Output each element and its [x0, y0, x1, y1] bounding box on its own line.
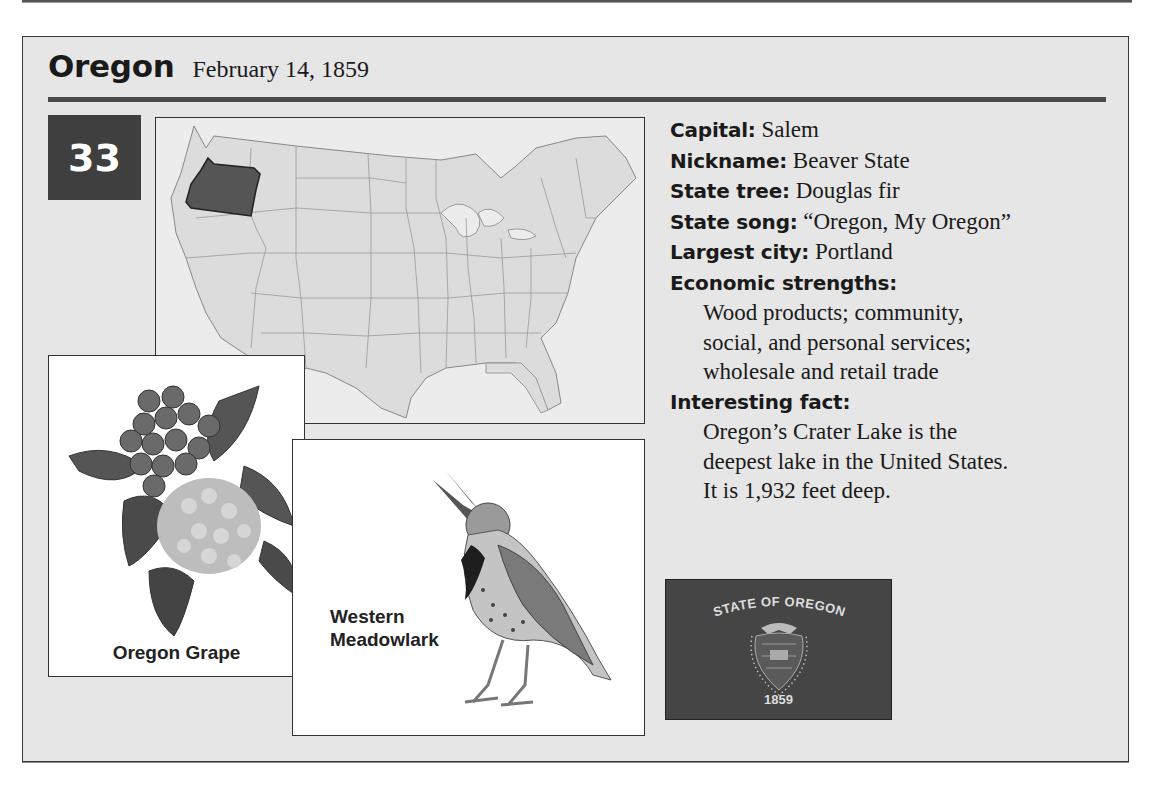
- fact-value: Beaver State: [793, 148, 910, 173]
- fact-label: Largest city:: [670, 240, 809, 264]
- fact-state-song: State song: “Oregon, My Oregon”: [670, 207, 1120, 238]
- flag-top-text: STATE OF OREGON: [711, 594, 847, 620]
- fact-economic-strengths: Economic strengths:: [670, 268, 1120, 299]
- text-line: Oregon’s Crater Lake is the: [703, 417, 1120, 447]
- previous-card-bottom-border: [22, 0, 1132, 3]
- state-name: Oregon: [48, 48, 174, 84]
- meadowlark-icon: [293, 440, 646, 737]
- state-bird-label-line1: Western: [330, 605, 439, 628]
- fact-label: State song:: [670, 210, 798, 234]
- flag-year: 1859: [666, 692, 891, 707]
- fact-nickname: Nickname: Beaver State: [670, 146, 1120, 177]
- title-divider: [48, 97, 1106, 102]
- economic-strengths-text: Wood products; community, social, and pe…: [670, 298, 1120, 387]
- oregon-grape-icon: [49, 356, 306, 678]
- fact-label: Interesting fact:: [670, 390, 850, 414]
- admission-date: February 14, 1859: [192, 56, 369, 83]
- text-line: It is 1,932 feet deep.: [703, 476, 1120, 506]
- state-facts: Capital: Salem Nickname: Beaver State St…: [670, 115, 1120, 506]
- state-flower-illustration: Oregon Grape: [48, 355, 305, 677]
- state-bird-illustration: Western Meadowlark: [292, 439, 645, 736]
- fact-label: State tree:: [670, 179, 790, 203]
- state-bird-label-line2: Meadowlark: [330, 628, 439, 651]
- text-line: Wood products; community,: [703, 298, 1120, 328]
- text-line: social, and personal services;: [703, 328, 1120, 358]
- card-header: Oregon February 14, 1859: [48, 48, 369, 96]
- fact-value: Douglas fir: [796, 178, 900, 203]
- interesting-fact-text: Oregon’s Crater Lake is the deepest lake…: [670, 417, 1120, 506]
- fact-label: Economic strengths:: [670, 271, 897, 295]
- fact-state-tree: State tree: Douglas fir: [670, 176, 1120, 207]
- fact-value: Portland: [815, 239, 893, 264]
- statehood-order-badge: 33: [48, 115, 141, 200]
- state-flower-label: Oregon Grape: [49, 642, 304, 664]
- fact-interesting-fact: Interesting fact:: [670, 387, 1120, 418]
- fact-value: “Oregon, My Oregon”: [803, 209, 1011, 234]
- state-bird-label: Western Meadowlark: [330, 605, 439, 651]
- state-flag: STATE OF OREGON 1859: [665, 579, 892, 720]
- text-line: wholesale and retail trade: [703, 357, 1120, 387]
- fact-capital: Capital: Salem: [670, 115, 1120, 146]
- fact-label: Nickname:: [670, 149, 787, 173]
- fact-value: Salem: [761, 117, 819, 142]
- text-line: deepest lake in the United States.: [703, 447, 1120, 477]
- fact-largest-city: Largest city: Portland: [670, 237, 1120, 268]
- svg-text:STATE OF OREGON: STATE OF OREGON: [711, 594, 847, 620]
- fact-label: Capital:: [670, 118, 756, 142]
